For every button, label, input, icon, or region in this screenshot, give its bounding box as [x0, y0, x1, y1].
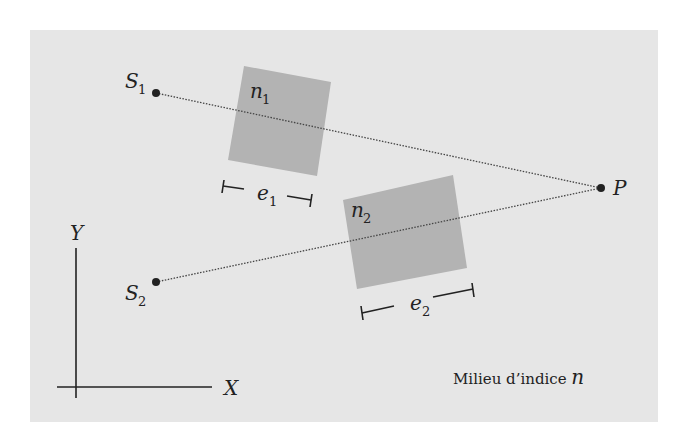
y-axis-label: Y — [70, 221, 85, 245]
svg-text:e: e — [257, 181, 269, 205]
svg-text:1: 1 — [269, 194, 277, 209]
svg-text:2: 2 — [363, 211, 371, 226]
label-s1: S 1 — [125, 69, 146, 97]
svg-text:n: n — [250, 79, 263, 103]
svg-text:n: n — [351, 198, 364, 222]
label-p: P — [612, 176, 627, 200]
optics-diagram: S 1 S 2 P n 1 n 2 e 1 e 2 — [0, 0, 684, 443]
label-e2: e 2 — [410, 291, 430, 319]
svg-text:2: 2 — [422, 304, 430, 319]
source-point-s1 — [152, 89, 160, 97]
svg-text:S: S — [125, 281, 139, 305]
medium-block-1 — [228, 66, 331, 176]
x-axis-label: X — [222, 376, 239, 400]
svg-text:S: S — [125, 69, 139, 93]
ray-s1-p — [156, 93, 601, 188]
label-e1: e 1 — [257, 181, 277, 209]
svg-text:1: 1 — [138, 82, 146, 97]
label-s2: S 2 — [125, 281, 146, 309]
medium-block-2 — [343, 175, 467, 289]
medium-caption: Milieu d’indice n — [453, 365, 584, 389]
coordinate-axes — [57, 248, 212, 398]
svg-text:2: 2 — [138, 294, 146, 309]
observation-point-p — [597, 184, 605, 192]
svg-text:e: e — [410, 291, 422, 315]
svg-text:1: 1 — [262, 92, 270, 107]
source-point-s2 — [152, 278, 160, 286]
